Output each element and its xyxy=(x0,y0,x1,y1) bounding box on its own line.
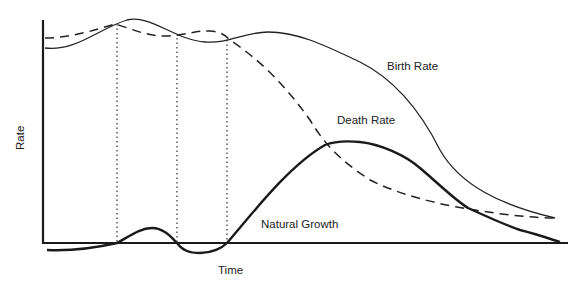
x-axis-label: Time xyxy=(218,264,243,276)
y-axis-label: Rate xyxy=(14,126,26,150)
death-rate-label: Death Rate xyxy=(337,114,395,126)
natural-growth-line xyxy=(47,141,560,253)
birth-rate-line xyxy=(45,19,555,218)
natural-growth-label: Natural Growth xyxy=(261,218,338,230)
birth-rate-label: Birth Rate xyxy=(387,60,438,72)
demographic-transition-chart xyxy=(0,0,580,294)
death-rate-line xyxy=(45,24,557,218)
